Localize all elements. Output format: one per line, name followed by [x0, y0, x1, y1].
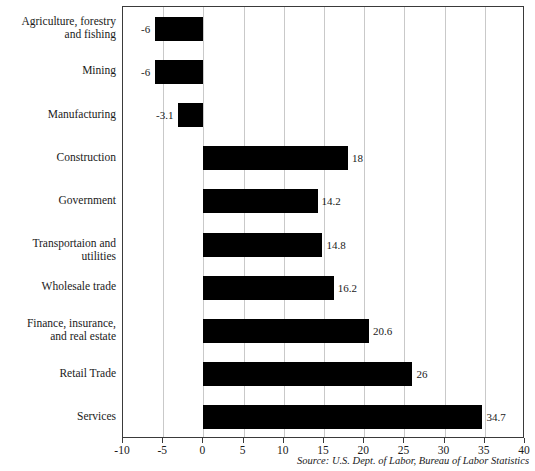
chart-page: Agriculture, forestry and fishingMiningM…	[0, 0, 535, 471]
bar-value-label: 26	[416, 362, 427, 386]
bar-value-label: 14.2	[322, 189, 341, 213]
bar	[203, 189, 317, 213]
x-tick-label: 0	[200, 444, 206, 456]
x-tick-20	[363, 438, 364, 443]
bar-value-label: 18	[352, 146, 363, 170]
category-label: Manufacturing	[0, 108, 116, 121]
bar	[155, 60, 203, 84]
x-tick-label: -10	[114, 444, 129, 456]
bar	[203, 276, 333, 300]
x-tick-10	[283, 438, 284, 443]
category-label: Retail Trade	[0, 367, 116, 380]
bar-value-label: 16.2	[338, 276, 357, 300]
bar	[178, 103, 203, 127]
category-label: Agriculture, forestry and fishing	[0, 15, 116, 41]
x-tick-0	[202, 438, 203, 443]
x-tick-40	[524, 438, 525, 443]
bar	[203, 405, 482, 429]
x-tick-25	[403, 438, 404, 443]
x-tick-15	[323, 438, 324, 443]
plot-area: -6-6-3.11814.214.816.220.62634.7	[122, 6, 524, 438]
category-label: Construction	[0, 151, 116, 164]
bar	[155, 17, 203, 41]
bar-value-label: -3.1	[156, 103, 173, 127]
bar-value-label: -6	[141, 17, 150, 41]
x-tick-label: 10	[277, 444, 289, 456]
bars-layer: -6-6-3.11814.214.816.220.62634.7	[123, 7, 523, 437]
bar	[203, 233, 322, 257]
x-tick-35	[484, 438, 485, 443]
x-tick-label: 5	[240, 444, 246, 456]
bar	[203, 319, 369, 343]
bar-value-label: 34.7	[486, 405, 505, 429]
bar-value-label: -6	[141, 60, 150, 84]
category-label: Finance, insurance, and real estate	[0, 317, 116, 343]
category-label: Transportaion and utilities	[0, 237, 116, 263]
category-label: Government	[0, 194, 116, 207]
bar	[203, 146, 348, 170]
x-tick-label: -5	[157, 444, 167, 456]
x-tick-5	[243, 438, 244, 443]
category-label: Wholesale trade	[0, 280, 116, 293]
bar	[203, 362, 412, 386]
category-label: Services	[0, 410, 116, 423]
bar-value-label: 14.8	[326, 233, 345, 257]
bar-value-label: 20.6	[373, 319, 392, 343]
x-tick--5	[162, 438, 163, 443]
source-note: Source: U.S. Dept. of Labor, Bureau of L…	[297, 455, 529, 466]
category-label: Mining	[0, 64, 116, 77]
x-tick-30	[444, 438, 445, 443]
x-tick--10	[122, 438, 123, 443]
